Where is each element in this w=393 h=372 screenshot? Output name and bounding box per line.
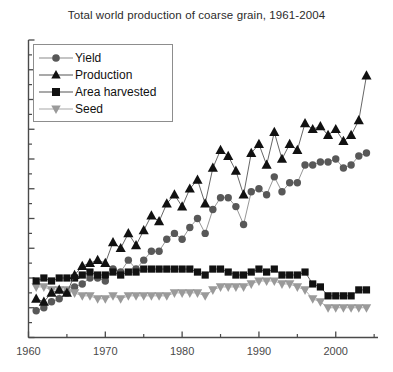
data-point-circle [286, 179, 293, 186]
data-point-square [332, 292, 339, 299]
data-point-triangle-down [193, 289, 202, 298]
data-point-circle [255, 185, 262, 192]
circle-icon [37, 51, 75, 65]
data-point-triangle-down [254, 277, 263, 286]
data-point-square [33, 277, 40, 284]
data-point-circle [209, 206, 216, 213]
data-point-triangle-up [331, 124, 341, 133]
data-point-triangle-down [39, 283, 48, 292]
data-point-circle [263, 191, 270, 198]
data-point-triangle-down [262, 277, 271, 286]
data-point-triangle-down [270, 277, 279, 286]
data-point-circle [155, 248, 162, 255]
data-point-triangle-down [362, 304, 371, 313]
data-point-circle [232, 203, 239, 210]
data-point-triangle-up [300, 118, 310, 127]
data-point-triangle-up [139, 225, 149, 234]
data-point-square [132, 268, 139, 275]
legend-item-yield[interactable]: Yield [37, 49, 168, 66]
legend-item-seed[interactable]: Seed [37, 100, 168, 117]
data-point-circle [355, 152, 362, 159]
data-point-circle [324, 158, 331, 165]
data-point-square [278, 271, 285, 278]
data-point-square [340, 292, 347, 299]
data-point-triangle-up [223, 151, 233, 160]
data-point-square [79, 271, 86, 278]
data-point-circle [56, 295, 63, 302]
data-point-square [263, 268, 270, 275]
data-point-triangle-down [154, 292, 163, 301]
x-axis-tick-labels: 19601970198019902000 [16, 345, 348, 357]
data-point-square [317, 283, 324, 290]
legend-item-area-harvested[interactable]: Area harvested [37, 83, 168, 100]
data-point-square [63, 274, 70, 281]
data-point-triangle-up [315, 121, 325, 130]
legend-item-label: Production [75, 68, 132, 82]
data-point-triangle-up [177, 201, 187, 210]
data-point-square [301, 268, 308, 275]
data-point-triangle-down [185, 289, 194, 298]
data-point-square [171, 265, 178, 272]
data-point-triangle-down [78, 292, 87, 301]
data-point-circle [32, 307, 39, 314]
data-point-square [324, 292, 331, 299]
data-point-square [40, 274, 47, 281]
data-point-square [348, 292, 355, 299]
data-point-square [232, 271, 239, 278]
data-point-triangle-down [316, 298, 325, 307]
data-point-circle [271, 173, 278, 180]
data-point-circle [186, 224, 193, 231]
data-point-triangle-up [346, 130, 356, 139]
data-point-square [52, 88, 60, 96]
triangle-up-icon [37, 68, 75, 82]
data-point-triangle-up [93, 255, 103, 264]
data-point-square [163, 265, 170, 272]
data-point-square [255, 265, 262, 272]
data-point-triangle-up [277, 154, 287, 163]
data-point-triangle-up [269, 127, 279, 136]
data-point-triangle-down [323, 304, 332, 313]
data-point-circle [309, 161, 316, 168]
data-point-square [355, 286, 362, 293]
data-point-triangle-down [223, 283, 232, 292]
data-point-triangle-up [31, 293, 41, 302]
data-point-circle [301, 161, 308, 168]
chart-figure: Total world production of coarse grain, … [0, 0, 393, 372]
data-point-triangle-up [254, 139, 264, 148]
data-point-circle [201, 230, 208, 237]
data-point-triangle-up [108, 237, 118, 246]
data-point-square [294, 271, 301, 278]
data-point-triangle-down [147, 292, 156, 301]
data-point-triangle-down [108, 292, 117, 301]
data-point-circle [248, 188, 255, 195]
legend-item-production[interactable]: Production [37, 66, 168, 83]
data-point-triangle-down [277, 280, 286, 289]
x-axis-tick-label: 1970 [93, 345, 117, 357]
data-point-triangle-up [285, 139, 295, 148]
data-point-circle [79, 280, 86, 287]
data-point-circle [178, 236, 185, 243]
data-point-square [148, 265, 155, 272]
data-point-triangle-up [215, 145, 225, 154]
data-point-triangle-down [170, 289, 179, 298]
data-point-circle [347, 161, 354, 168]
data-point-circle [194, 215, 201, 222]
data-point-triangle-down [239, 283, 248, 292]
data-point-square [194, 268, 201, 275]
data-point-triangle-up [123, 228, 133, 237]
data-point-triangle-down [293, 283, 302, 292]
data-point-square [125, 268, 132, 275]
data-point-circle [225, 194, 232, 201]
data-point-circle [171, 230, 178, 237]
data-point-triangle-up [354, 115, 364, 124]
data-point-circle [148, 248, 155, 255]
data-point-square [102, 271, 109, 278]
data-point-circle [363, 149, 370, 156]
data-point-triangle-down [101, 295, 110, 304]
data-point-square [248, 268, 255, 275]
data-point-triangle-down [85, 292, 94, 301]
data-point-square [86, 268, 93, 275]
data-point-square [202, 271, 209, 278]
data-point-circle [52, 54, 60, 62]
data-point-square [217, 265, 224, 272]
